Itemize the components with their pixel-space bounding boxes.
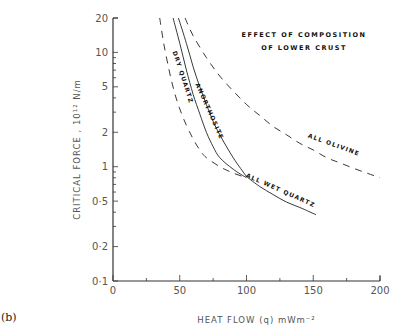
x-axis-title: HEAT FLOW (q) mWm⁻² (197, 315, 316, 325)
curve-dry-quartz (173, 18, 246, 178)
y-tick-label: 10 (95, 47, 108, 58)
chart-title-line: EFFECT OF COMPOSITION (242, 31, 367, 39)
x-tick-label: 200 (370, 285, 389, 296)
x-tick-label: 150 (304, 285, 323, 296)
y-tick-label: 0·5 (92, 196, 108, 207)
x-tick-label: 100 (237, 285, 256, 296)
y-axis-title: CRITICAL FORCE , 10¹² N/m (72, 79, 82, 220)
y-tick-label: 2 (102, 127, 108, 138)
x-tick-label: 0 (110, 285, 116, 296)
y-tick-label: 5 (102, 81, 108, 92)
curve-label-all-olivine: ALL OLIVINE (307, 132, 361, 157)
chart-title-line: OF LOWER CRUST (261, 44, 347, 52)
x-tick-label: 50 (173, 285, 186, 296)
y-tick-label: 0·2 (92, 241, 108, 252)
y-tick-label: 1 (102, 161, 108, 172)
labels: EFFECT OF COMPOSITIONOF LOWER CRUSTDRY Q… (172, 31, 367, 208)
chart: 0·10·20·51251020050100150200HEAT FLOW (q… (0, 0, 404, 334)
y-tick-label: 20 (95, 13, 108, 24)
y-tick-label: 0·1 (92, 276, 108, 287)
axes: 0·10·20·51251020050100150200HEAT FLOW (q… (72, 13, 390, 326)
curve-label-all-wet-quartz: ALL WET QUARTZ (245, 171, 317, 208)
